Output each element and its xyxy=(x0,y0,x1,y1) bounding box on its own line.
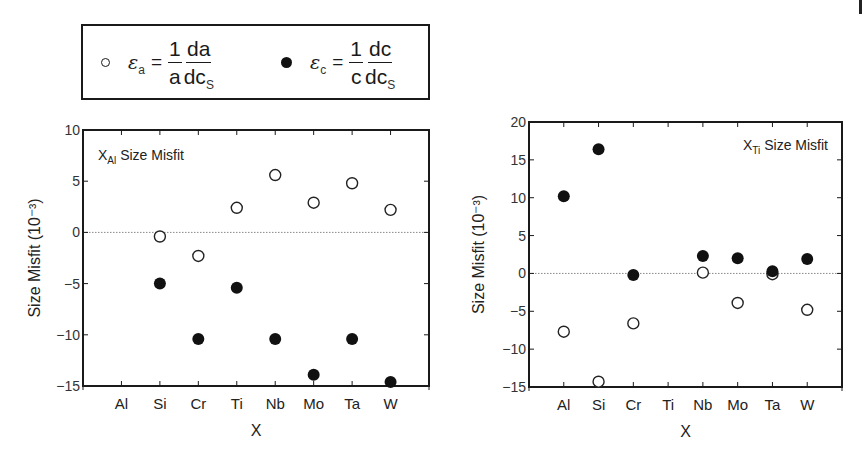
y-tick-label: −10 xyxy=(56,327,80,343)
open-circle-data-point xyxy=(231,202,242,213)
filled-circle-data-point xyxy=(269,333,281,345)
x-tick-label: Cr xyxy=(190,395,206,412)
filled-circle-data-point xyxy=(346,333,358,345)
y-tick-label: −5 xyxy=(64,276,80,292)
y-tick-label: −5 xyxy=(510,303,526,319)
y-tick-label: −15 xyxy=(502,379,526,395)
filled-circle-data-point xyxy=(308,369,320,381)
charts-canvas: 1050−5−10−15AlSiCrTiNbMoTaWXSize Misfit … xyxy=(0,0,862,474)
y-tick-label: 20 xyxy=(510,114,526,130)
x-tick-label: Cr xyxy=(625,396,641,413)
x-tick-label: Al xyxy=(557,396,570,413)
open-circle-data-point xyxy=(385,204,396,215)
x-tick-label: Nb xyxy=(266,395,285,412)
open-circle-data-point xyxy=(193,250,204,261)
x-tick-label: Al xyxy=(115,395,128,412)
filled-circle-data-point xyxy=(593,143,605,155)
open-circle-data-point xyxy=(347,178,358,189)
y-tick-label: −15 xyxy=(56,378,80,394)
open-circle-data-point xyxy=(732,297,743,308)
open-circle-data-point xyxy=(154,231,165,242)
plot-frame xyxy=(83,130,429,386)
y-tick-label: 10 xyxy=(64,122,80,138)
y-tick-label: 5 xyxy=(72,173,80,189)
plot-title: XTi Size Misfit xyxy=(743,137,828,156)
open-circle-data-point xyxy=(308,197,319,208)
x-axis-label: X xyxy=(251,422,262,439)
open-circle-data-point xyxy=(628,318,639,329)
x-axis-label: X xyxy=(680,423,691,440)
filled-circle-data-point xyxy=(192,333,204,345)
filled-circle-data-point xyxy=(385,376,397,388)
x-tick-label: Ti xyxy=(231,395,243,412)
y-tick-label: 5 xyxy=(518,228,526,244)
x-tick-label: Mo xyxy=(303,395,324,412)
plot-frame xyxy=(529,122,842,387)
x-tick-label: Nb xyxy=(693,396,712,413)
y-tick-label: 0 xyxy=(72,224,80,240)
filled-circle-data-point xyxy=(801,253,813,265)
filled-circle-data-point xyxy=(231,282,243,294)
x-tick-label: W xyxy=(383,395,398,412)
y-tick-label: 10 xyxy=(510,190,526,206)
x-tick-label: Ti xyxy=(662,396,674,413)
filled-circle-data-point xyxy=(697,250,709,262)
x-tick-label: W xyxy=(800,396,815,413)
open-circle-data-point xyxy=(558,326,569,337)
y-axis-label: Size Misfit (10⁻³) xyxy=(26,198,43,317)
filled-circle-data-point xyxy=(766,265,778,277)
x-tick-label: Si xyxy=(592,396,605,413)
y-axis-label: Size Misfit (10⁻³) xyxy=(470,195,487,314)
filled-circle-data-point xyxy=(627,269,639,281)
filled-circle-data-point xyxy=(732,252,744,264)
open-circle-data-point xyxy=(270,170,281,181)
y-tick-label: 15 xyxy=(510,152,526,168)
y-tick-label: 0 xyxy=(518,265,526,281)
x-tick-label: Si xyxy=(153,395,166,412)
open-circle-data-point xyxy=(593,376,604,387)
filled-circle-data-point xyxy=(558,190,570,202)
open-circle-data-point xyxy=(697,267,708,278)
x-tick-label: Ta xyxy=(344,395,361,412)
y-tick-label: −10 xyxy=(502,341,526,357)
x-tick-label: Mo xyxy=(727,396,748,413)
filled-circle-data-point xyxy=(154,278,166,290)
plot-title: XAl Size Misfit xyxy=(98,147,184,166)
open-circle-data-point xyxy=(802,304,813,315)
x-tick-label: Ta xyxy=(765,396,782,413)
